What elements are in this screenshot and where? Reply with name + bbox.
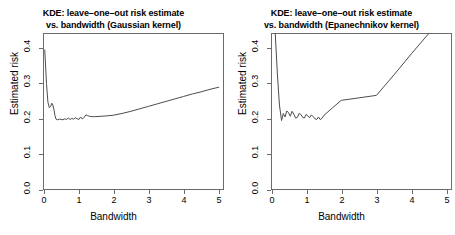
figure-canvas: KDE: leave–one–out risk estimate vs. ban… (0, 0, 455, 235)
panel-title-epanechnikov: KDE: leave–one–out risk estimate vs. ban… (228, 8, 455, 31)
ytick-mark-1 (39, 154, 43, 155)
ytick-mark-3 (267, 83, 271, 84)
panel-title-line1: KDE: leave–one–out risk estimate (271, 8, 412, 18)
xtick-mark-5 (219, 190, 220, 194)
ytick-label-0: 0.0 (246, 183, 264, 193)
xtick-label-2: 2 (332, 195, 352, 205)
xtick-label-1: 1 (297, 195, 317, 205)
xtick-label-0: 0 (262, 195, 282, 205)
ytick-mark-0 (39, 190, 43, 191)
xtick-mark-2 (342, 190, 343, 194)
xtick-mark-3 (377, 190, 378, 194)
panel-title-line2: vs. bandwidth (Epanechnikov kernel) (228, 20, 455, 32)
ytick-mark-0 (267, 190, 271, 191)
ytick-label-1: 0.1 (18, 147, 36, 157)
x-axis-title-epanechnikov: Bandwidth (228, 211, 455, 222)
ytick-label-3: 0.3 (246, 76, 264, 86)
plot-panel-epanechnikov: KDE: leave–one–out risk estimate vs. ban… (228, 0, 455, 235)
ytick-label-4: 0.4 (246, 41, 264, 51)
xtick-label-4: 4 (402, 195, 422, 205)
ytick-mark-1 (267, 154, 271, 155)
ytick-label-0: 0.0 (18, 183, 36, 193)
xtick-mark-0 (44, 190, 45, 194)
ytick-label-2: 0.2 (246, 112, 264, 122)
xtick-label-5: 5 (437, 195, 455, 205)
x-axis-title-gaussian: Bandwidth (0, 211, 227, 222)
xtick-mark-4 (184, 190, 185, 194)
risk-curve-gaussian (45, 50, 219, 120)
xtick-label-1: 1 (69, 195, 89, 205)
y-axis-title-epanechnikov: Estimated risk (237, 34, 248, 134)
panel-title-line2: vs. bandwidth (Gaussian kernel) (0, 20, 227, 32)
xtick-mark-1 (79, 190, 80, 194)
xtick-label-3: 3 (139, 195, 159, 205)
xtick-mark-5 (447, 190, 448, 194)
ytick-label-4: 0.4 (18, 41, 36, 51)
plot-area-epanechnikov (271, 33, 452, 190)
xtick-label-4: 4 (174, 195, 194, 205)
ytick-mark-2 (39, 119, 43, 120)
xtick-label-2: 2 (104, 195, 124, 205)
ytick-mark-4 (267, 48, 271, 49)
xtick-mark-1 (307, 190, 308, 194)
xtick-mark-4 (412, 190, 413, 194)
ytick-label-2: 0.2 (18, 112, 36, 122)
xtick-mark-2 (114, 190, 115, 194)
xtick-mark-3 (149, 190, 150, 194)
ytick-mark-4 (39, 48, 43, 49)
plot-panel-gaussian: KDE: leave–one–out risk estimate vs. ban… (0, 0, 227, 235)
plot-area-gaussian (43, 33, 224, 190)
ytick-mark-2 (267, 119, 271, 120)
ytick-mark-3 (39, 83, 43, 84)
xtick-mark-0 (272, 190, 273, 194)
panel-title-gaussian: KDE: leave–one–out risk estimate vs. ban… (0, 8, 227, 31)
panel-title-line1: KDE: leave–one–out risk estimate (43, 8, 184, 18)
xtick-label-0: 0 (34, 195, 54, 205)
xtick-label-5: 5 (209, 195, 229, 205)
xtick-label-3: 3 (367, 195, 387, 205)
ytick-label-3: 0.3 (18, 76, 36, 86)
y-axis-title-gaussian: Estimated risk (9, 34, 20, 134)
ytick-label-1: 0.1 (246, 147, 264, 157)
